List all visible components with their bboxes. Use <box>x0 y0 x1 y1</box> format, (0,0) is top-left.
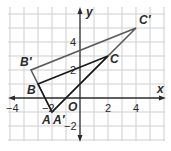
x-tick-4: 4 <box>133 102 139 114</box>
point-label-a-prime: A′ <box>52 113 66 127</box>
coordinate-plane: y x O −4 −2 2 4 4 2 −2 B′ B A A′ C C′ <box>0 0 171 151</box>
y-axis-down-arrow-icon <box>78 135 83 142</box>
y-axis-up-arrow-icon <box>78 7 83 14</box>
point-label-c-prime: C′ <box>139 13 152 27</box>
y-tick-2: 2 <box>70 64 76 76</box>
point-label-b-prime: B′ <box>20 55 33 69</box>
y-tick-neg2: −2 <box>64 120 77 132</box>
x-tick-2: 2 <box>105 102 111 114</box>
x-axis-right-arrow-icon <box>159 96 166 101</box>
origin-label: O <box>68 100 78 114</box>
point-label-b: B <box>27 83 36 97</box>
y-tick-4: 4 <box>70 36 76 48</box>
x-axis-label: x <box>156 82 165 96</box>
y-axis <box>78 7 83 142</box>
grid <box>8 7 165 141</box>
x-tick-neg4: −4 <box>6 102 19 114</box>
point-label-c: C <box>110 52 119 66</box>
y-axis-label: y <box>85 5 94 19</box>
point-label-a: A <box>41 113 51 127</box>
x-axis-left-arrow-icon <box>8 96 15 101</box>
